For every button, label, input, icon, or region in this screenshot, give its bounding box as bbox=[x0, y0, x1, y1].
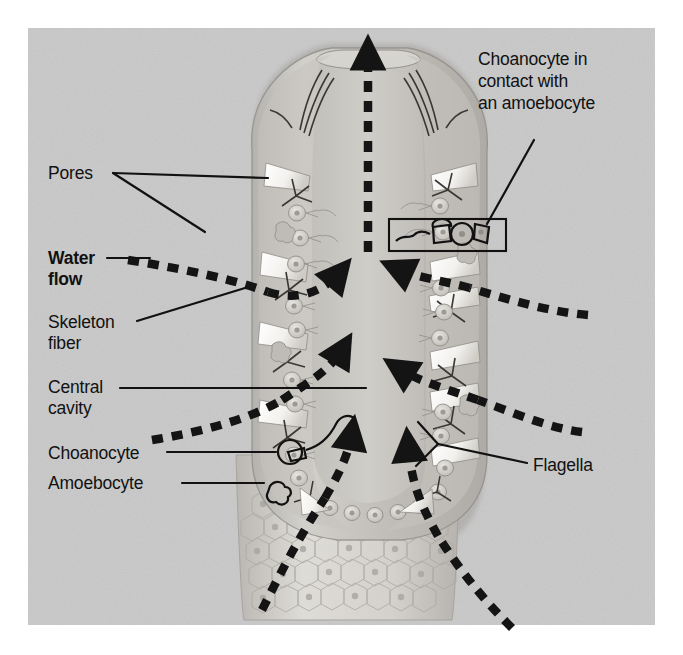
label-skeleton-line2: fiber bbox=[48, 333, 81, 353]
label-central-line2: cavity bbox=[48, 398, 92, 418]
label-water-flow: Waterflow bbox=[48, 248, 95, 290]
figure-root: Pores Waterflow Skeletonfiber Centralcav… bbox=[0, 0, 683, 655]
label-skeleton-line1: Skeleton bbox=[48, 312, 115, 332]
label-flagella: Flagella bbox=[533, 455, 593, 476]
label-callout-line2: contact with bbox=[478, 71, 568, 91]
label-pores: Pores bbox=[48, 163, 93, 184]
label-callout-line1: Choanocyte in bbox=[478, 49, 587, 69]
label-amoebocyte: Amoebocyte bbox=[48, 473, 143, 494]
label-skeleton-fiber: Skeletonfiber bbox=[48, 312, 115, 354]
label-water-flow-line1: Water bbox=[48, 248, 95, 268]
label-choanocyte: Choanocyte bbox=[48, 443, 139, 464]
sponge-body bbox=[236, 44, 487, 620]
label-central-cavity: Centralcavity bbox=[48, 377, 103, 419]
label-central-line1: Central bbox=[48, 377, 103, 397]
label-callout-line3: an amoebocyte bbox=[478, 93, 595, 113]
label-water-flow-line2: flow bbox=[48, 269, 82, 289]
label-callout-choanocyte-amoebocyte: Choanocyte incontact withan amoebocyte bbox=[478, 48, 595, 114]
